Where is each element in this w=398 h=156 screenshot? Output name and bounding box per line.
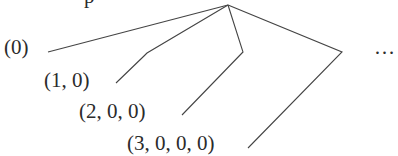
edge-1 bbox=[116, 5, 228, 83]
node-label-3: (3, 0, 0, 0) bbox=[127, 133, 215, 154]
node-label-1: (1, 0) bbox=[44, 70, 90, 91]
node-label-0: (0) bbox=[4, 37, 29, 58]
edge-2 bbox=[182, 5, 243, 115]
ellipsis-continuation: … bbox=[374, 37, 395, 58]
edge-0 bbox=[48, 5, 228, 52]
tree-diagram: p (0) (1, 0) (2, 0, 0) (3, 0, 0, 0) … bbox=[0, 0, 398, 156]
edge-3 bbox=[228, 5, 342, 148]
node-label-2: (2, 0, 0) bbox=[79, 101, 146, 122]
